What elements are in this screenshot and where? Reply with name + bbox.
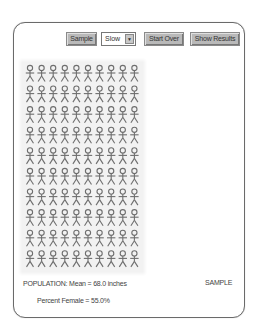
stick-figure-icon	[95, 65, 103, 81]
stick-figure-icon	[61, 210, 69, 226]
stick-figure-icon	[107, 210, 115, 226]
stick-figure-icon	[107, 148, 115, 164]
population-grid	[22, 62, 143, 272]
stick-figure-icon	[107, 251, 115, 267]
stick-figure-icon	[107, 127, 115, 143]
stick-figure-icon	[61, 230, 69, 246]
stick-figure-icon	[37, 189, 45, 205]
stick-figure-icon	[72, 86, 80, 102]
stick-figure-icon	[72, 127, 80, 143]
stick-figure-icon	[61, 148, 69, 164]
stick-figure-icon	[95, 127, 103, 143]
sample-heading: SAMPLE	[205, 279, 232, 286]
stick-figure-icon	[49, 189, 57, 205]
stick-figure-icon	[49, 65, 57, 81]
stick-figure-icon	[72, 251, 80, 267]
stick-figure-icon	[130, 65, 138, 81]
stick-figure-icon	[130, 251, 138, 267]
stick-figure-icon	[84, 107, 92, 123]
speed-select-value: Slow	[105, 35, 120, 42]
stick-figure-icon	[26, 86, 34, 102]
stick-figure-icon	[26, 107, 34, 123]
stick-figure-icon	[119, 127, 127, 143]
stick-figure-icon	[37, 230, 45, 246]
population-figures	[22, 62, 143, 272]
stick-figure-icon	[72, 168, 80, 184]
stick-figure-icon	[119, 107, 127, 123]
stick-figure-icon	[26, 251, 34, 267]
stick-figure-icon	[95, 189, 103, 205]
stick-figure-icon	[72, 230, 80, 246]
stick-figure-icon	[130, 148, 138, 164]
stick-figure-icon	[84, 148, 92, 164]
stick-figure-icon	[107, 189, 115, 205]
speed-select[interactable]: Slow ▼	[101, 32, 136, 46]
stick-figure-icon	[37, 107, 45, 123]
stick-figure-icon	[84, 251, 92, 267]
stick-figure-icon	[72, 189, 80, 205]
stick-figure-icon	[119, 148, 127, 164]
percent-female-label: Percent Female = 55.0%	[37, 297, 110, 304]
stick-figure-icon	[61, 107, 69, 123]
stick-figure-icon	[119, 251, 127, 267]
stick-figure-icon	[119, 210, 127, 226]
stick-figure-icon	[130, 210, 138, 226]
stick-figure-icon	[119, 86, 127, 102]
stick-figure-icon	[95, 168, 103, 184]
stick-figure-icon	[26, 168, 34, 184]
stick-figure-icon	[84, 127, 92, 143]
stick-figure-icon	[119, 230, 127, 246]
population-mean-label: POPULATION: Mean = 68.0 inches	[23, 280, 127, 287]
stick-figure-icon	[95, 230, 103, 246]
stick-figure-icon	[72, 210, 80, 226]
stick-figure-icon	[95, 86, 103, 102]
stick-figure-icon	[72, 65, 80, 81]
stick-figure-icon	[119, 168, 127, 184]
stick-figure-icon	[26, 189, 34, 205]
stick-figure-icon	[61, 168, 69, 184]
stick-figure-icon	[84, 189, 92, 205]
stick-figure-icon	[26, 230, 34, 246]
stick-figure-icon	[130, 86, 138, 102]
sample-button[interactable]: Sample	[66, 32, 97, 46]
stick-figure-icon	[49, 107, 57, 123]
stick-figure-icon	[49, 251, 57, 267]
stick-figure-icon	[37, 168, 45, 184]
stick-figure-icon	[26, 210, 34, 226]
stick-figure-icon	[49, 86, 57, 102]
stick-figure-icon	[26, 65, 34, 81]
stick-figure-icon	[84, 86, 92, 102]
stick-figure-icon	[107, 168, 115, 184]
stick-figure-icon	[84, 168, 92, 184]
stick-figure-icon	[37, 65, 45, 81]
stick-figure-icon	[49, 210, 57, 226]
stick-figure-icon	[49, 148, 57, 164]
stick-figure-icon	[107, 86, 115, 102]
stick-figure-icon	[107, 65, 115, 81]
stick-figure-icon	[61, 65, 69, 81]
stick-figure-icon	[130, 189, 138, 205]
stick-figure-icon	[49, 127, 57, 143]
stick-figure-icon	[130, 168, 138, 184]
stick-figure-icon	[37, 86, 45, 102]
stick-figure-icon	[37, 127, 45, 143]
stick-figure-icon	[119, 189, 127, 205]
stick-figure-icon	[130, 127, 138, 143]
stick-figure-icon	[119, 65, 127, 81]
stick-figure-icon	[95, 107, 103, 123]
stick-figure-icon	[37, 148, 45, 164]
stick-figure-icon	[49, 168, 57, 184]
stick-figure-icon	[95, 210, 103, 226]
stick-figure-icon	[130, 230, 138, 246]
stick-figure-icon	[107, 230, 115, 246]
stick-figure-icon	[49, 230, 57, 246]
stick-figure-icon	[26, 148, 34, 164]
stick-figure-icon	[72, 107, 80, 123]
chevron-down-icon[interactable]: ▼	[125, 34, 134, 44]
start-over-button[interactable]: Start Over	[144, 32, 184, 46]
stick-figure-icon	[95, 251, 103, 267]
stick-figure-icon	[72, 148, 80, 164]
stick-figure-icon	[84, 230, 92, 246]
show-results-button[interactable]: Show Results	[190, 32, 240, 46]
stick-figure-icon	[61, 189, 69, 205]
